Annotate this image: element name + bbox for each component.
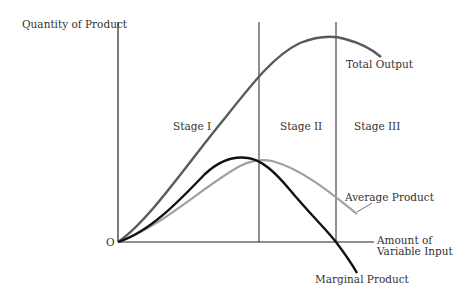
- average-product-leader: [357, 203, 372, 212]
- marginal-product-label: Marginal Product: [315, 273, 410, 285]
- y-axis-label: Quantity of Product: [22, 18, 128, 30]
- total-output-curve: [118, 37, 381, 242]
- average-product-curve: [118, 160, 357, 242]
- stage-3-label: Stage III: [354, 120, 400, 132]
- total-output-label: Total Output: [346, 58, 414, 70]
- production-stages-diagram: Quantity of Product O Amount of Variable…: [0, 0, 464, 293]
- stage-2-label: Stage II: [280, 120, 322, 132]
- stage-1-label: Stage I: [173, 120, 211, 132]
- x-axis-label-line2: Variable Input: [376, 245, 454, 257]
- origin-label: O: [106, 236, 115, 248]
- marginal-product-curve: [118, 158, 357, 273]
- average-product-label: Average Product: [344, 191, 435, 203]
